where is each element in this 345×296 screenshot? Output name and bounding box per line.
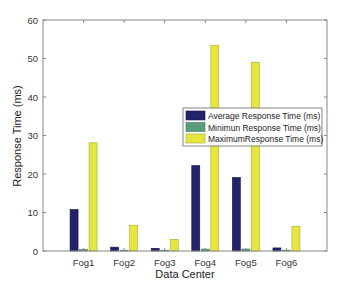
bar	[292, 226, 300, 251]
bar	[111, 247, 119, 251]
y-axis-title: Response Time (ms)	[11, 85, 23, 186]
y-tick-label: 60	[27, 15, 38, 26]
bar	[211, 45, 219, 251]
legend-swatch	[186, 134, 205, 143]
y-tick-label: 30	[27, 130, 38, 141]
y-tick-label: 40	[27, 92, 38, 103]
y-tick-label: 0	[33, 246, 38, 257]
bar-chart: 0102030405060 Fog1Fog2Fog3Fog4Fog5Fog6 D…	[0, 0, 345, 296]
bar	[70, 209, 78, 251]
bar	[89, 143, 97, 251]
x-tick-label: Fog5	[235, 257, 257, 268]
x-tick-label: Fog6	[276, 257, 298, 268]
y-tick-label: 50	[27, 53, 38, 64]
y-tick-label: 10	[27, 207, 38, 218]
x-tick-label: Fog1	[73, 257, 95, 268]
legend-label: MaximumResponse Time (ms)	[208, 134, 323, 144]
bar	[170, 239, 178, 251]
bar	[192, 166, 200, 251]
legend-swatch	[186, 123, 205, 132]
x-tick-label: Fog2	[113, 257, 135, 268]
y-tick-label: 20	[27, 169, 38, 180]
legend-label: Minimun Response Time (ms)	[208, 123, 321, 133]
bar	[130, 225, 138, 251]
x-tick-label: Fog3	[154, 257, 176, 268]
x-tick-label: Fog4	[194, 257, 216, 268]
legend-label: Average Response Time (ms)	[208, 111, 320, 121]
bar	[251, 62, 259, 251]
bar	[232, 177, 240, 251]
x-axis-title: Data Center	[155, 268, 215, 280]
legend: Average Response Time (ms)Minimun Respon…	[183, 108, 323, 146]
legend-swatch	[186, 111, 205, 120]
